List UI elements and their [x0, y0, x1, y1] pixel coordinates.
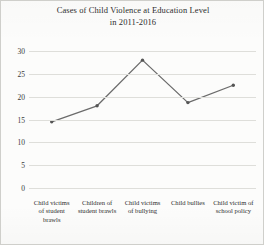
y-axis-tick-label: 20 [18, 92, 26, 101]
x-axis-category-label-line: Child victim of [212, 199, 255, 207]
x-axis-category-label: Child bullies [165, 199, 210, 224]
data-point-marker [232, 84, 235, 87]
y-axis-tick-label: 5 [21, 161, 25, 170]
data-point-marker [141, 58, 144, 61]
data-point-marker [95, 104, 98, 107]
y-axis-tick-label: 0 [21, 184, 25, 193]
y-axis-tick-label: 30 [18, 47, 26, 56]
x-axis-category-label-line: Child victims [121, 199, 164, 207]
chart-figure: Cases of Child Violence at Education Lev… [0, 0, 264, 245]
x-axis-category-label-line: Children of [75, 199, 118, 207]
series-line [52, 60, 234, 122]
x-axis-category-label-line: school policy [212, 207, 255, 215]
y-axis-tick-label: 10 [18, 138, 26, 147]
chart-title-line-2: in 2011-2016 [1, 17, 264, 29]
x-axis-labels: Child victimsof studentbrawlsChildren of… [29, 199, 256, 224]
x-axis-category-label: Children ofstudent brawls [74, 199, 119, 224]
gridline: 20 [29, 97, 256, 98]
x-axis-category-label-line: brawls [30, 216, 73, 224]
y-axis-tick-label: 25 [18, 69, 26, 78]
x-axis-category-label: Child victimsof studentbrawls [29, 199, 74, 224]
x-axis-category-label-line: Child victims [30, 199, 73, 207]
x-axis-category-label-line: of student [30, 207, 73, 215]
data-point-marker [50, 120, 53, 123]
x-axis-category-label: Child victim ofschool policy [211, 199, 256, 224]
x-axis-category-label-line: of bullying [121, 207, 164, 215]
plot-area: 051015202530 [29, 51, 256, 188]
gridline: 5 [29, 165, 256, 166]
x-axis-category-label-line: Child bullies [166, 199, 209, 207]
data-point-marker [186, 101, 189, 104]
gridline: 10 [29, 142, 256, 143]
chart-title: Cases of Child Violence at Education Lev… [1, 5, 264, 28]
y-axis-tick-label: 15 [18, 115, 26, 124]
gridline: 25 [29, 74, 256, 75]
gridline: 30 [29, 51, 256, 52]
x-axis-category-label: Child victimsof bullying [120, 199, 165, 224]
x-axis-category-label-line: student brawls [75, 207, 118, 215]
gridline: 15 [29, 120, 256, 121]
chart-title-line-1: Cases of Child Violence at Education Lev… [1, 5, 264, 17]
gridline: 0 [29, 188, 256, 189]
